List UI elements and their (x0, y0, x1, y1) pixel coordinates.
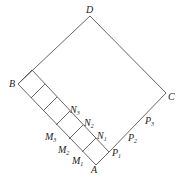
point-label-p1: P1 (111, 147, 121, 159)
point-label-m1: M1 (71, 155, 83, 167)
point-label-n3: N3 (69, 104, 80, 116)
edge-p1a (96, 152, 109, 165)
point-label-m2: M2 (57, 144, 69, 156)
rung (31, 84, 45, 98)
geometry-figure: DBCAN3N2N1M3M2M1P1P2P3 (0, 0, 187, 188)
rung (69, 125, 83, 139)
point-label-d: D (85, 4, 94, 15)
edge-cp1 (109, 93, 166, 152)
rung (82, 138, 96, 152)
point-label-a: A (90, 164, 98, 175)
quadrilateral-diagram: DBCAN3N2N1M3M2M1P1P2P3 (0, 0, 187, 188)
rung (43, 97, 57, 111)
edge-dc (90, 16, 166, 93)
point-label-b: B (9, 78, 15, 89)
point-label-m3: M3 (44, 131, 56, 143)
rung (56, 111, 70, 125)
point-label-p3: P3 (144, 115, 154, 127)
point-label-n2: N2 (83, 117, 94, 129)
point-label-p2: P2 (127, 132, 137, 144)
rung (18, 70, 32, 84)
point-label-n1: N1 (96, 130, 107, 142)
point-label-c: C (168, 91, 175, 102)
